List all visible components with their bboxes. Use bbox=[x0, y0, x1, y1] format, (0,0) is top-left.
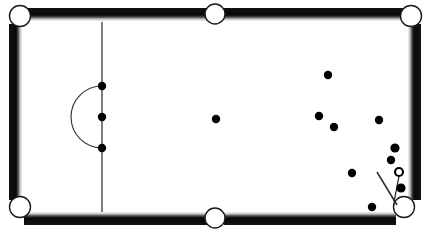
ball-mid-right-a[interactable] bbox=[315, 112, 323, 120]
ball-near-pocket[interactable] bbox=[396, 183, 405, 192]
pocket-top-middle[interactable] bbox=[205, 4, 225, 24]
ball-bottom-rail[interactable] bbox=[368, 203, 376, 211]
ball-right-rail-a[interactable] bbox=[375, 116, 383, 124]
ball-lower-mid[interactable] bbox=[348, 169, 356, 177]
rail-top-left bbox=[24, 8, 207, 21]
rail-bottom-right bbox=[224, 212, 396, 225]
table-canvas bbox=[0, 0, 430, 234]
rail-right bbox=[408, 24, 421, 200]
ball-baulk-bottom[interactable] bbox=[98, 144, 106, 152]
rail-top-right bbox=[224, 8, 408, 21]
ball-mid-right-b[interactable] bbox=[330, 123, 338, 131]
ball-right-rail-c[interactable] bbox=[387, 156, 395, 164]
ball-right-rail-b[interactable] bbox=[390, 143, 399, 152]
billiard-table-diagram bbox=[0, 0, 430, 234]
rail-bottom-left bbox=[24, 212, 207, 225]
ball-upper-right[interactable] bbox=[324, 71, 332, 79]
pocket-bottom-right[interactable] bbox=[394, 197, 415, 218]
pocket-bottom-left[interactable] bbox=[10, 197, 31, 218]
pocket-top-right[interactable] bbox=[401, 6, 422, 27]
pocket-top-left[interactable] bbox=[10, 6, 31, 27]
ball-center[interactable] bbox=[212, 115, 220, 123]
ball-baulk-top[interactable] bbox=[98, 82, 106, 90]
pocket-bottom-middle[interactable] bbox=[205, 208, 225, 228]
cue-ball[interactable] bbox=[395, 168, 403, 176]
ball-baulk-middle[interactable] bbox=[98, 113, 106, 121]
rail-left bbox=[9, 24, 22, 200]
